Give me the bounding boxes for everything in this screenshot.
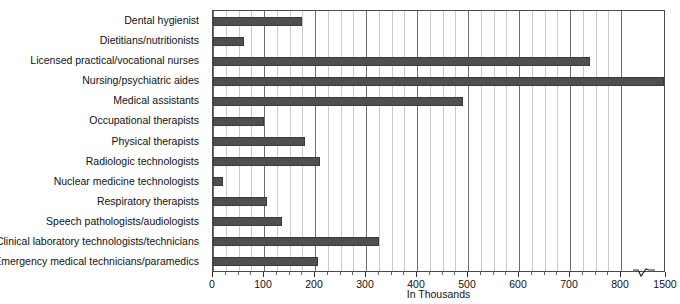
- x-tick-mark-minor: [238, 272, 239, 275]
- category-label: Licensed practical/vocational nurses: [0, 50, 205, 70]
- bar-row: [213, 151, 664, 171]
- x-tick-mark-minor: [531, 272, 532, 275]
- category-label: Emergency medical technicians/paramedics: [0, 252, 205, 272]
- x-tick-mark: [263, 272, 264, 277]
- x-tick-mark-minor: [544, 272, 545, 275]
- category-label: Speech pathologists/audiologists: [0, 212, 205, 232]
- bar[interactable]: [213, 137, 305, 146]
- x-axis-title: In Thousands: [212, 288, 665, 300]
- bar[interactable]: [213, 77, 664, 86]
- bar-row: [213, 51, 664, 71]
- bar-row: [213, 91, 664, 111]
- category-labels-axis: Dental hygienist Dietitians/nutritionist…: [0, 10, 205, 272]
- category-label: Dental hygienist: [0, 10, 205, 30]
- x-tick-mark: [518, 272, 519, 277]
- bar-row: [213, 11, 664, 31]
- bar[interactable]: [213, 237, 379, 246]
- bar[interactable]: [213, 257, 318, 266]
- x-tick-mark: [416, 272, 417, 277]
- bar-row: [213, 31, 664, 51]
- x-tick-mark-minor: [493, 272, 494, 275]
- bar-row: [213, 131, 664, 151]
- bar[interactable]: [213, 197, 267, 206]
- x-tick-mark-minor: [556, 272, 557, 275]
- x-tick-mark: [467, 272, 468, 277]
- bar[interactable]: [213, 37, 244, 46]
- x-tick-mark-minor: [403, 272, 404, 275]
- category-label: Dietitians/nutritionists: [0, 30, 205, 50]
- x-tick-mark-minor: [607, 272, 608, 275]
- bar[interactable]: [213, 17, 302, 26]
- x-tick-mark-minor: [505, 272, 506, 275]
- category-label: Radiologic technologists: [0, 151, 205, 171]
- x-tick-mark: [212, 272, 213, 277]
- bar[interactable]: [213, 97, 463, 106]
- axis-break-zigzag-icon: [633, 268, 655, 278]
- bar[interactable]: [213, 57, 590, 66]
- x-tick-mark-minor: [480, 272, 481, 275]
- bar[interactable]: [213, 117, 264, 126]
- bars-layer: [213, 11, 664, 271]
- bar-row: [213, 111, 664, 131]
- bar-row: [213, 191, 664, 211]
- bar[interactable]: [213, 157, 320, 166]
- category-label: Medical assistants: [0, 91, 205, 111]
- x-tick-mark-minor: [250, 272, 251, 275]
- bar-row: [213, 71, 664, 91]
- x-tick-mark-minor: [301, 272, 302, 275]
- category-label: Clinical laboratory technologists/techni…: [0, 232, 205, 252]
- category-label: Occupational therapists: [0, 111, 205, 131]
- bar-row: [213, 251, 664, 271]
- x-tick-mark-minor: [327, 272, 328, 275]
- plot-area: [212, 10, 665, 272]
- x-tick-mark-minor: [595, 272, 596, 275]
- x-tick-mark-minor: [442, 272, 443, 275]
- bar-row: [213, 171, 664, 191]
- category-label: Respiratory therapists: [0, 191, 205, 211]
- x-tick-mark-minor: [276, 272, 277, 275]
- bar[interactable]: [213, 217, 282, 226]
- x-tick-mark: [314, 272, 315, 277]
- bar[interactable]: [213, 177, 223, 186]
- horizontal-bar-chart: Dental hygienist Dietitians/nutritionist…: [0, 0, 680, 304]
- x-tick-mark: [569, 272, 570, 277]
- bar-row: [213, 211, 664, 231]
- bar-row: [213, 231, 664, 251]
- x-tick-mark-minor: [454, 272, 455, 275]
- x-tick-mark-minor: [391, 272, 392, 275]
- category-label: Physical therapists: [0, 131, 205, 151]
- x-tick-mark-minor: [352, 272, 353, 275]
- x-tick-mark-minor: [429, 272, 430, 275]
- x-tick-mark-minor: [582, 272, 583, 275]
- x-tick-mark: [620, 272, 621, 277]
- x-tick-mark-minor: [289, 272, 290, 275]
- category-label: Nuclear medicine technologists: [0, 171, 205, 191]
- x-tick-mark-minor: [340, 272, 341, 275]
- category-label: Nursing/psychiatric aides: [0, 70, 205, 90]
- x-tick-mark: [665, 272, 666, 277]
- x-tick-mark-minor: [225, 272, 226, 275]
- x-tick-mark-minor: [378, 272, 379, 275]
- x-tick-mark: [365, 272, 366, 277]
